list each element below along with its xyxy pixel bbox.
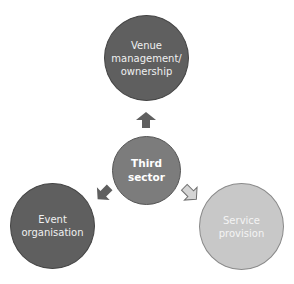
arrow-up-icon: [135, 111, 157, 129]
node-label: Third sector: [128, 157, 165, 184]
node-label: Venue management/ ownership: [111, 39, 181, 78]
node-event-organisation: Event organisation: [10, 183, 95, 269]
node-service-provision: Service provision: [199, 183, 284, 270]
arrow-down-left-icon: [94, 183, 114, 203]
node-third-sector: Third sector: [112, 136, 181, 205]
node-label: Event organisation: [21, 213, 83, 239]
node-label: Service provision: [219, 214, 265, 240]
arrow-down-right-icon: [180, 183, 200, 203]
node-venue-management: Venue management/ ownership: [104, 15, 189, 101]
